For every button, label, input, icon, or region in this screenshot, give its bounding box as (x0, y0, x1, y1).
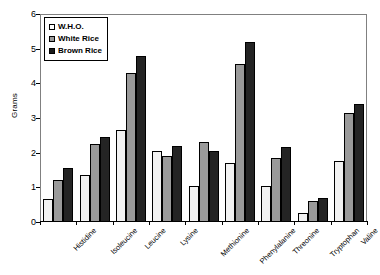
x-tick-mark (76, 221, 77, 225)
legend-item: Brown Rice (49, 45, 102, 57)
x-tick-mark (185, 221, 186, 225)
legend-item: W.H.O. (49, 21, 102, 33)
legend-label: W.H.O. (58, 22, 84, 32)
legend-item: White Rice (49, 33, 102, 45)
y-tick-mark (36, 83, 40, 84)
legend-label: Brown Rice (58, 46, 102, 56)
x-tick-mark (222, 221, 223, 225)
x-tick-label: Phenylalanine (258, 226, 298, 266)
x-tick-label: Histidine (71, 226, 98, 253)
x-tick-mark (258, 221, 259, 225)
x-tick-label: Valine (359, 226, 380, 247)
y-tick-mark (36, 153, 40, 154)
y-tick-mark (36, 118, 40, 119)
legend-swatch-white-rice-icon (49, 36, 55, 42)
x-tick-label: Lysine (178, 226, 200, 248)
x-tick-label: Tryptophan (328, 226, 361, 259)
x-tick-mark (113, 221, 114, 225)
legend-swatch-brown-rice-icon (49, 48, 55, 54)
x-tick-mark (367, 221, 368, 225)
x-tick-label: Isoleucine (109, 226, 139, 256)
x-tick-mark (149, 221, 150, 225)
legend-swatch-who-icon (49, 24, 55, 30)
x-tick-mark (331, 221, 332, 225)
legend-label: White Rice (58, 34, 99, 44)
x-tick-mark (40, 221, 41, 225)
x-tick-mark (294, 221, 295, 225)
y-tick-mark (36, 49, 40, 50)
x-tick-label: Leucine (143, 226, 168, 251)
x-tick-label: Methionine (219, 226, 251, 258)
y-tick-mark (36, 14, 40, 15)
legend: W.H.O. White Rice Brown Rice (44, 17, 108, 61)
y-tick-mark (36, 187, 40, 188)
